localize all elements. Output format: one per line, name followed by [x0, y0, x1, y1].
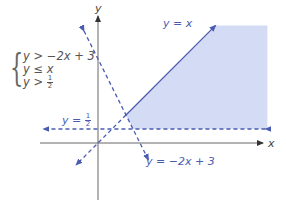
inequality-3: y > 12 — [23, 75, 95, 88]
brace-icon: { — [10, 48, 23, 86]
label-y-neg2x-plus-3: y = −2x + 3 — [146, 155, 215, 168]
label-y-half: y = 12 — [62, 113, 91, 128]
solution-region — [126, 25, 267, 129]
y-axis-label: y — [95, 2, 102, 15]
graph-canvas — [0, 0, 286, 211]
x-axis-label: x — [268, 137, 275, 150]
fraction: 12 — [47, 75, 53, 90]
label-y-eq-x: y = x — [163, 17, 192, 30]
fraction: 12 — [85, 113, 91, 128]
inequality-2: y ≤ x — [23, 63, 95, 76]
